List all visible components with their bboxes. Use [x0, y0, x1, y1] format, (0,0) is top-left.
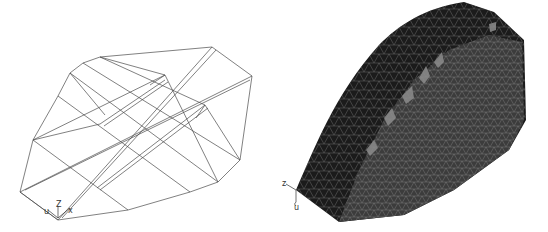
wireframe-drawing: u Z x: [0, 0, 274, 232]
mesh-drawing: z u: [274, 0, 548, 232]
axis-label-u: u: [44, 207, 49, 216]
mesh-panel: z u: [274, 0, 548, 232]
axis-label-x: x: [68, 206, 73, 215]
axis-label-z: Z: [56, 200, 62, 209]
wireframe-panel: u Z x: [0, 0, 274, 232]
axis-label-u: u: [294, 203, 299, 212]
axis-label-z: z: [282, 179, 286, 188]
